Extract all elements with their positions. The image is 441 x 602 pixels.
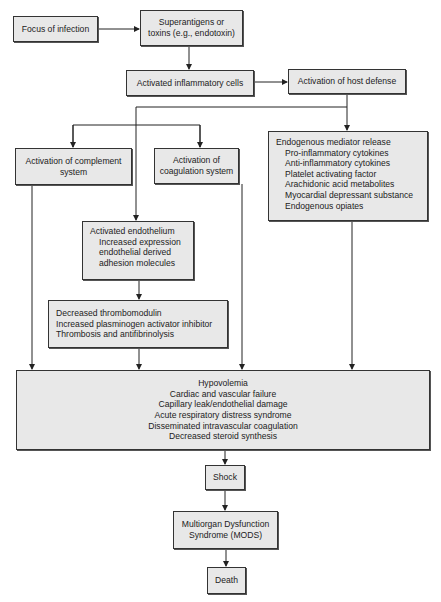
node-label: Superantigens or — [159, 17, 224, 28]
node-item: Increased expression — [90, 237, 193, 248]
node-label: system — [60, 167, 87, 178]
node-decreased-thrombomodulin: Decreased thrombomodulin Increased plasm… — [48, 300, 228, 348]
node-item: Platelet activating factor — [276, 169, 427, 180]
node-label: Increased plasminogen activator inhibito… — [56, 319, 227, 330]
node-title: Activated endothelium — [90, 226, 193, 237]
node-mods: Multiorgan Dysfunction Syndrome (MODS) — [173, 511, 278, 549]
node-label: Cardiac and vascular failure — [170, 389, 277, 400]
node-clinical-outcomes: Hypovolemia Cardiac and vascular failure… — [16, 370, 430, 450]
node-label: Capillary leak/endothelial damage — [159, 399, 288, 410]
node-label: Thrombosis and antifibrinolysis — [56, 329, 227, 340]
node-label: toxins (e.g., endotoxin) — [148, 28, 235, 39]
node-activation-coagulation: Activation of coagulation system — [154, 148, 239, 184]
node-item: Endogenous opiates — [276, 201, 427, 212]
node-label: Focus of infection — [22, 24, 89, 35]
node-label: Disseminated intravascular coagulation — [148, 421, 298, 432]
node-label: Decreased steroid synthesis — [169, 431, 277, 442]
node-label: Activation of host defense — [298, 76, 396, 87]
node-endogenous-mediator-release: Endogenous mediator release Pro-inflamma… — [268, 131, 428, 221]
node-label: coagulation system — [160, 166, 234, 177]
node-label: Shock — [213, 472, 237, 483]
node-label: Activation of complement — [25, 156, 121, 167]
node-activation-host-defense: Activation of host defense — [288, 69, 406, 94]
node-label: Decreased thrombomodulin — [56, 308, 227, 319]
node-focus-of-infection: Focus of infection — [13, 16, 98, 42]
node-label: Death — [215, 575, 238, 586]
node-death: Death — [207, 567, 246, 594]
node-title: Endogenous mediator release — [276, 137, 427, 148]
node-item: Anti-inflammatory cytokines — [276, 158, 427, 169]
node-activated-endothelium: Activated endothelium Increased expressi… — [82, 221, 194, 280]
node-activated-inflammatory-cells: Activated inflammatory cells — [126, 70, 254, 96]
node-label: Activated inflammatory cells — [137, 78, 244, 89]
node-label: Hypovolemia — [198, 378, 248, 389]
node-activation-complement: Activation of complement system — [15, 148, 132, 185]
node-label: Activation of — [173, 155, 220, 166]
node-superantigens: Superantigens or toxins (e.g., endotoxin… — [140, 10, 243, 46]
node-item: endothelial derived — [90, 247, 193, 258]
node-item: Arachidonic acid metabolites — [276, 179, 427, 190]
node-label: Syndrome (MODS) — [189, 530, 262, 541]
node-item: adhesion molecules — [90, 258, 193, 269]
node-label: Acute respiratory distress syndrome — [154, 410, 291, 421]
node-item: Pro-inflammatory cytokines — [276, 148, 427, 159]
node-item: Myocardial depressant substance — [276, 190, 427, 201]
node-shock: Shock — [205, 465, 245, 490]
node-label: Multiorgan Dysfunction — [182, 519, 269, 530]
